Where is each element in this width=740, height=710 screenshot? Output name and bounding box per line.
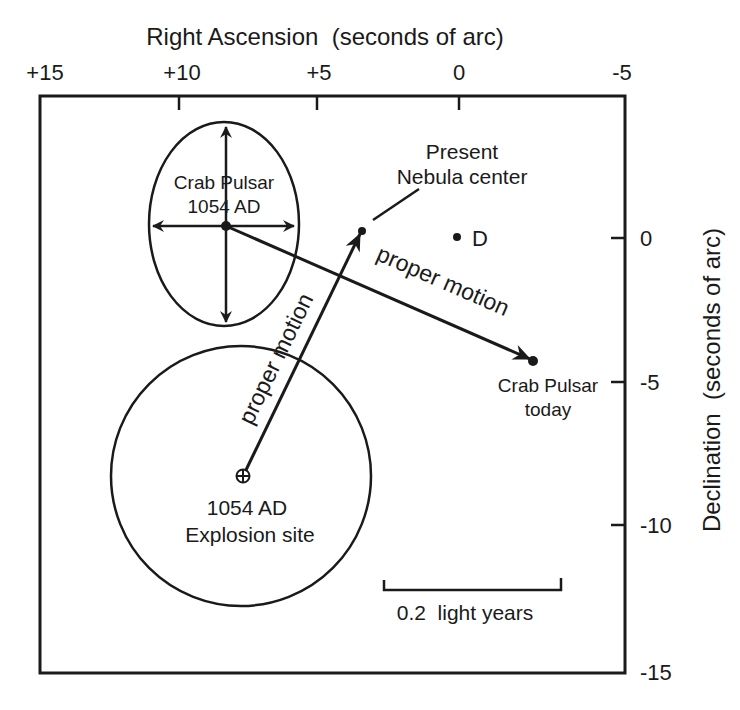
nebula-center-point xyxy=(358,227,366,235)
x-tick-label: -5 xyxy=(612,60,632,85)
point-d xyxy=(453,233,461,241)
x-tick-label: +10 xyxy=(163,60,200,85)
y-axis-ticks xyxy=(611,238,625,525)
pulsar-today-label-line2: today xyxy=(525,399,572,420)
pulsar-1054-label-line2: 1054 AD xyxy=(188,196,261,217)
y-tick-label: -10 xyxy=(640,513,672,538)
crab-pulsar-diagram: Right Ascension (seconds of arc) +15 +10… xyxy=(0,0,740,710)
nebula-label-line1: Present xyxy=(426,140,499,163)
x-axis-ticks xyxy=(179,96,459,110)
x-tick-label: +5 xyxy=(306,60,331,85)
x-axis-title: Right Ascension (seconds of arc) xyxy=(146,23,504,50)
explosion-label-line2: Explosion site xyxy=(185,523,315,546)
explosion-label-line1: 1054 AD xyxy=(207,496,288,519)
pulsar-1054-label-line1: Crab Pulsar xyxy=(174,172,275,193)
pulsar-today-label-line1: Crab Pulsar xyxy=(498,375,599,396)
pulsar-today-point xyxy=(528,356,538,366)
y-axis-title: Declination (seconds of arc) xyxy=(698,228,725,532)
x-tick-label: +15 xyxy=(26,60,63,85)
pulsar-motion-label: proper motion xyxy=(373,240,513,321)
y-tick-label: -15 xyxy=(640,660,672,685)
y-tick-label: -5 xyxy=(640,370,660,395)
explosion-site-marker xyxy=(237,470,250,483)
nebula-label-line2: Nebula center xyxy=(397,165,528,188)
scale-bar-label: 0.2 light years xyxy=(397,601,534,624)
nebula-proper-motion-arrow xyxy=(246,234,360,470)
x-tick-label: 0 xyxy=(453,60,465,85)
scale-bar xyxy=(384,578,561,590)
point-d-label: D xyxy=(472,226,488,251)
y-tick-label: 0 xyxy=(640,226,652,251)
nebula-leader-line xyxy=(373,189,419,220)
